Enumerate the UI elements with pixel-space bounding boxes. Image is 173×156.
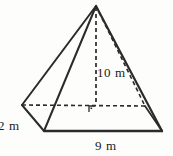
dashed-base-edge-left-to-back-right	[22, 105, 145, 106]
solid-base-edge-front-right-to-back-right	[145, 106, 162, 131]
pyramid-figure: 10 m 9 m 2 m	[0, 0, 173, 156]
height-label: 10 m	[97, 66, 126, 79]
pyramid-diagram	[0, 0, 173, 156]
right-angle-dot	[91, 108, 93, 110]
solid-base-edge-left-to-front-left	[22, 105, 44, 131]
solid-lateral-edge-apex-to-front-left	[44, 6, 96, 131]
solid-lateral-edge-apex-to-left	[22, 6, 96, 105]
base-front-length-label: 9 m	[95, 139, 117, 152]
base-side-length-label: 2 m	[0, 119, 20, 132]
